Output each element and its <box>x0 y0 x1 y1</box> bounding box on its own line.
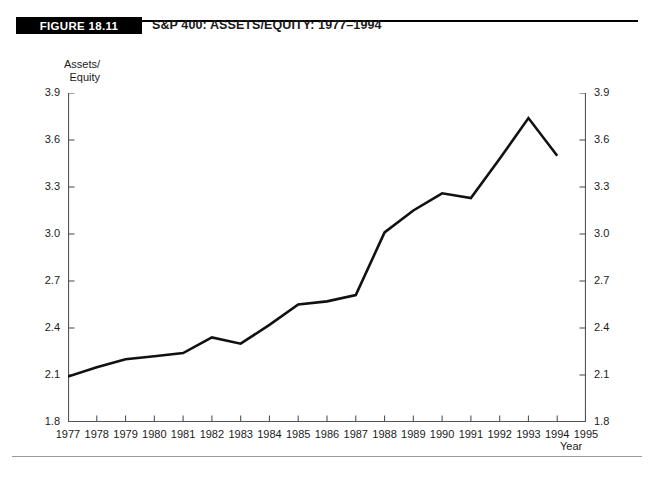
data-series-line <box>68 118 557 377</box>
y-tick-label-right: 2.7 <box>594 274 622 286</box>
axis-tick-marks <box>68 93 586 422</box>
y-tick-label-left: 2.4 <box>32 321 60 333</box>
axis-frame <box>68 93 586 422</box>
y-tick-label-right: 3.0 <box>594 227 622 239</box>
chart-plot-area <box>68 93 586 422</box>
y-tick-label-left: 2.7 <box>32 274 60 286</box>
y-tick-label-left: 2.1 <box>32 368 60 380</box>
y-tick-label-right: 3.3 <box>594 180 622 192</box>
figure-header: FIGURE 18.11 S&P 400: ASSETS/EQUITY: 197… <box>0 0 654 46</box>
x-tick-label: 1995 <box>569 428 603 440</box>
assets-equity-line-chart <box>68 93 586 422</box>
y-tick-label-right: 2.4 <box>594 321 622 333</box>
y-tick-label-left: 3.3 <box>32 180 60 192</box>
y-tick-label-right: 1.8 <box>594 415 622 427</box>
figure-title: S&P 400: ASSETS/EQUITY: 1977–1994 <box>152 18 382 32</box>
y-tick-label-left: 3.9 <box>32 86 60 98</box>
y-axis-title: Assets/ Equity <box>36 58 100 84</box>
page-bottom-rule <box>12 456 642 457</box>
y-tick-label-right: 2.1 <box>594 368 622 380</box>
x-axis-title: Year <box>560 440 620 452</box>
y-tick-label-left: 3.0 <box>32 227 60 239</box>
y-tick-label-left: 1.8 <box>32 415 60 427</box>
y-tick-label-right: 3.9 <box>594 86 622 98</box>
y-tick-label-right: 3.6 <box>594 133 622 145</box>
figure-number-badge: FIGURE 18.11 <box>16 17 142 34</box>
y-tick-label-left: 3.6 <box>32 133 60 145</box>
